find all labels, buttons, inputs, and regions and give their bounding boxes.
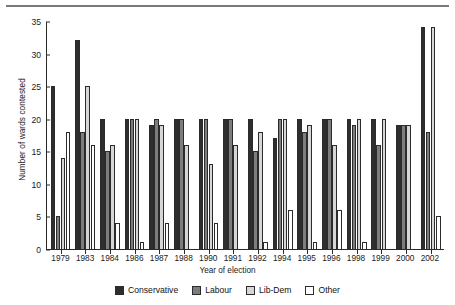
bar-group-1986 bbox=[122, 22, 147, 249]
bar-group-1990 bbox=[196, 22, 221, 249]
bar-conservative-1996 bbox=[322, 119, 327, 249]
bar-conservative-1984 bbox=[100, 119, 105, 249]
bar-conservative-1990 bbox=[199, 119, 204, 249]
x-tick-label-1995: 1995 bbox=[294, 253, 319, 263]
bar-libdem-1995 bbox=[307, 125, 312, 249]
x-tick-label-1984: 1984 bbox=[97, 253, 122, 263]
bar-other-1979 bbox=[66, 132, 71, 249]
x-axis-tick-labels: 1979198319841986198719881990199119921994… bbox=[47, 253, 443, 263]
x-tick-label-1992: 1992 bbox=[245, 253, 270, 263]
legend-swatch-libdem-icon bbox=[246, 286, 255, 295]
legend-swatch-other-icon bbox=[305, 286, 314, 295]
bar-other-1983 bbox=[91, 145, 96, 249]
bar-conservative-1999 bbox=[371, 119, 376, 249]
x-tick-label-1979: 1979 bbox=[48, 253, 73, 263]
legend-label: Lib-Dem bbox=[259, 285, 291, 295]
bar-other-1987 bbox=[165, 223, 170, 249]
legend-label: Other bbox=[318, 285, 340, 295]
x-tick-label-1988: 1988 bbox=[171, 253, 196, 263]
bar-conservative-2002 bbox=[421, 27, 426, 248]
bar-labour-1999 bbox=[376, 145, 381, 249]
x-tick-label-1987: 1987 bbox=[147, 253, 172, 263]
bar-libdem-1987 bbox=[159, 125, 164, 249]
bar-conservative-1994 bbox=[273, 138, 278, 249]
bar-group-1998 bbox=[344, 22, 369, 249]
bar-conservative-1988 bbox=[174, 119, 179, 249]
bar-libdem-1998 bbox=[357, 119, 362, 249]
bar-libdem-1983 bbox=[85, 86, 90, 249]
bar-conservative-1992 bbox=[248, 119, 253, 249]
bar-other-1996 bbox=[337, 210, 342, 249]
bar-labour-1988 bbox=[179, 119, 184, 249]
chart-figure: Number of wards contested 05101520253035… bbox=[0, 0, 455, 305]
x-tick-label-1986: 1986 bbox=[122, 253, 147, 263]
bar-labour-1994 bbox=[278, 119, 283, 249]
legend-item-libdem[interactable]: Lib-Dem bbox=[246, 285, 291, 295]
bar-conservative-1983 bbox=[75, 40, 80, 248]
bar-group-1987 bbox=[147, 22, 172, 249]
y-axis-title: Number of wards contested bbox=[18, 30, 27, 230]
bar-other-1998 bbox=[362, 242, 367, 249]
y-tick-label: 25 bbox=[31, 82, 46, 92]
y-tick-label: 20 bbox=[31, 115, 46, 125]
bar-libdem-1984 bbox=[110, 145, 115, 249]
bar-groups bbox=[47, 22, 444, 249]
bar-labour-1990 bbox=[204, 119, 209, 249]
x-tick-label-1999: 1999 bbox=[368, 253, 393, 263]
bar-labour-1995 bbox=[302, 132, 307, 249]
bar-labour-1983 bbox=[80, 132, 85, 249]
plot-area: 05101520253035 bbox=[46, 22, 444, 250]
bar-labour-1984 bbox=[105, 151, 110, 249]
bar-other-1992 bbox=[263, 242, 268, 249]
bar-group-2002 bbox=[418, 22, 443, 249]
bar-conservative-1986 bbox=[125, 119, 130, 249]
legend-label: Conservative bbox=[128, 285, 178, 295]
y-tick-label: 35 bbox=[31, 17, 46, 27]
bar-group-2000 bbox=[394, 22, 419, 249]
top-divider-rule bbox=[6, 5, 449, 7]
bar-group-1995 bbox=[295, 22, 320, 249]
x-tick-label-1990: 1990 bbox=[196, 253, 221, 263]
bar-other-1995 bbox=[313, 242, 318, 249]
bar-group-1988 bbox=[172, 22, 197, 249]
bar-libdem-1999 bbox=[382, 119, 387, 249]
bar-conservative-1991 bbox=[223, 119, 228, 249]
bar-other-2002 bbox=[436, 216, 441, 249]
x-tick-label-1996: 1996 bbox=[319, 253, 344, 263]
bar-conservative-1998 bbox=[347, 119, 352, 249]
bar-libdem-1988 bbox=[184, 145, 189, 249]
x-tick-label-1998: 1998 bbox=[344, 253, 369, 263]
legend-item-conservative[interactable]: Conservative bbox=[115, 285, 178, 295]
x-tick-label-1994: 1994 bbox=[270, 253, 295, 263]
bar-libdem-2000 bbox=[406, 125, 411, 249]
x-tick-label-1983: 1983 bbox=[73, 253, 98, 263]
bar-group-1992 bbox=[246, 22, 271, 249]
y-tick-label: 0 bbox=[36, 245, 46, 255]
bar-libdem-1994 bbox=[283, 119, 288, 249]
legend-label: Labour bbox=[205, 285, 232, 295]
bar-labour-1991 bbox=[228, 119, 233, 249]
bar-group-1996 bbox=[320, 22, 345, 249]
bar-group-1994 bbox=[270, 22, 295, 249]
y-tick-label: 15 bbox=[31, 147, 46, 157]
bar-conservative-1979 bbox=[51, 86, 56, 249]
x-tick-label-2002: 2002 bbox=[418, 253, 443, 263]
bar-libdem-1990 bbox=[209, 164, 214, 249]
bar-group-1979 bbox=[48, 22, 73, 249]
bar-labour-2000 bbox=[401, 125, 406, 249]
legend-item-other[interactable]: Other bbox=[305, 285, 340, 295]
bar-labour-2002 bbox=[426, 132, 431, 249]
bar-conservative-2000 bbox=[396, 125, 401, 249]
bar-other-1994 bbox=[288, 210, 293, 249]
bar-libdem-1979 bbox=[61, 158, 66, 249]
x-tick-label-2000: 2000 bbox=[393, 253, 418, 263]
bar-group-1999 bbox=[369, 22, 394, 249]
x-tick-label-1991: 1991 bbox=[221, 253, 246, 263]
bar-group-1984 bbox=[98, 22, 123, 249]
bar-libdem-1992 bbox=[258, 132, 263, 249]
bar-libdem-1996 bbox=[332, 145, 337, 249]
x-axis-title: Year of election bbox=[0, 266, 455, 275]
legend-swatch-conservative-icon bbox=[115, 286, 124, 295]
bar-libdem-2002 bbox=[431, 27, 436, 248]
legend-item-labour[interactable]: Labour bbox=[192, 285, 232, 295]
